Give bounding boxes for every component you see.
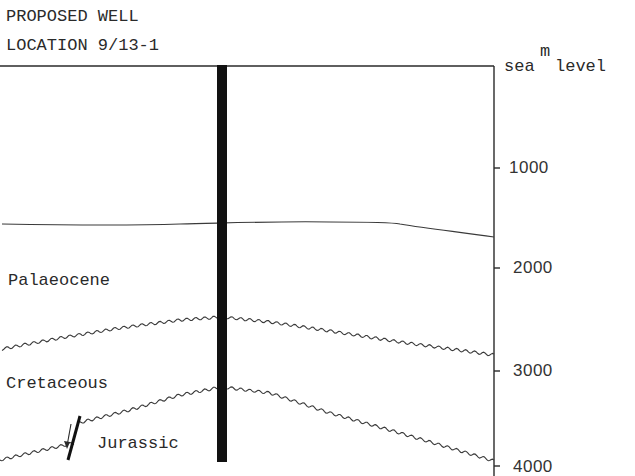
proposed-well-bore <box>217 65 227 462</box>
base-cretaceous-unconformity-upthrown <box>78 386 494 461</box>
base-palaeocene-unconformity <box>2 316 494 356</box>
cross-section-graphic <box>0 0 635 476</box>
top-palaeocene-horizon <box>2 222 494 237</box>
base-cretaceous-unconformity-downthrown <box>0 443 74 461</box>
fault-line <box>68 416 80 460</box>
fault-arrow-icon <box>64 424 71 449</box>
